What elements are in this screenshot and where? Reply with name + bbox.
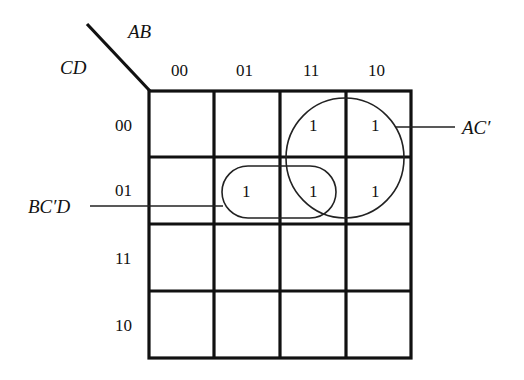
cell-r1-c10: 1 [371,182,380,201]
column-code-11: 11 [303,61,319,80]
cell-r0-c11: 1 [309,116,318,135]
row-code-11: 11 [115,249,131,268]
row-variable-label: CD [60,57,87,78]
group-bcd-label: BC′D [28,196,70,217]
column-code-01: 01 [236,61,253,80]
cell-r0-c10: 1 [371,116,380,135]
cell-r1-c11: 1 [309,182,318,201]
group-ac-label: AC′ [460,117,491,138]
karnaugh-map: AB CD 00 01 11 10 00 01 11 10 1 1 1 1 1 … [0,0,524,380]
row-code-01: 01 [115,181,132,200]
row-code-00: 00 [115,116,132,135]
cell-r1-c01: 1 [242,182,251,201]
row-code-10: 10 [115,316,132,335]
column-variable-label: AB [126,21,152,42]
column-code-10: 10 [368,61,385,80]
column-code-00: 00 [171,61,188,80]
